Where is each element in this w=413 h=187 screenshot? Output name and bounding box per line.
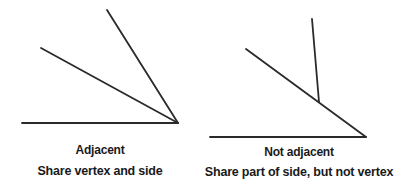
adjacent-shared-ray [41,48,178,123]
angle-diagram [0,0,413,187]
not-adjacent-title: Not adjacent [264,145,334,159]
adjacent-upper-ray [107,10,178,123]
not-adjacent-angles-figure [210,19,366,137]
not-adjacent-caption: Share part of side, but not vertex [205,165,393,179]
not-adjacent-short-ray [312,19,319,102]
adjacent-caption: Share vertex and side [37,164,162,178]
adjacent-angles-figure [22,10,178,123]
adjacent-title: Adjacent [75,143,124,157]
not-adjacent-long-ray [246,49,366,137]
